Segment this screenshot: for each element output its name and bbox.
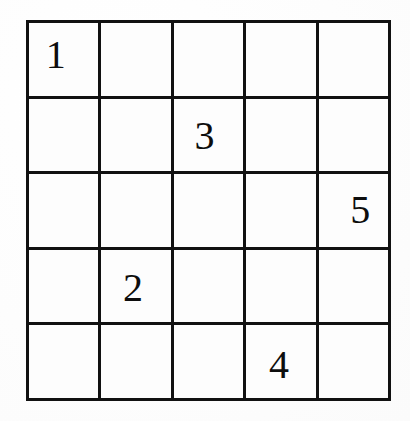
grid-cell-r5c4[interactable]: 4 bbox=[246, 325, 315, 398]
grid-cell-r4c3[interactable] bbox=[174, 250, 243, 323]
grid-cell-r3c4[interactable] bbox=[246, 174, 315, 247]
grid-cell-r1c3[interactable] bbox=[174, 23, 243, 96]
cell-value-r4c2: 2 bbox=[101, 252, 167, 323]
grid-cell-r2c4[interactable] bbox=[246, 99, 315, 172]
grid-cell-r1c5[interactable] bbox=[319, 23, 388, 96]
grid-cell-r1c1[interactable]: 1 bbox=[29, 23, 98, 96]
grid-cell-r4c5[interactable] bbox=[319, 250, 388, 323]
grid-cell-r1c2[interactable] bbox=[101, 23, 170, 96]
grid-cell-r2c2[interactable] bbox=[101, 99, 170, 172]
cell-value-r1c1: 1 bbox=[29, 23, 90, 92]
grid-cell-r3c3[interactable] bbox=[174, 174, 243, 247]
grid-cell-r3c5[interactable]: 5 bbox=[319, 174, 388, 247]
puzzle-grid: 1 3 bbox=[26, 20, 391, 401]
grid-cell-r2c5[interactable] bbox=[319, 99, 388, 172]
grid-cell-r5c2[interactable] bbox=[101, 325, 170, 398]
grid-cell-r4c2[interactable]: 2 bbox=[101, 250, 170, 323]
grid-cell-r2c1[interactable] bbox=[29, 99, 98, 172]
grid-cell-r5c1[interactable] bbox=[29, 325, 98, 398]
grid-cell-r2c3[interactable]: 3 bbox=[174, 99, 243, 172]
grid-cell-r4c1[interactable] bbox=[29, 250, 98, 323]
cell-value-r3c5: 5 bbox=[326, 174, 388, 247]
grid-cell-r5c3[interactable] bbox=[174, 325, 243, 398]
scanned-page: 1 3 bbox=[0, 0, 410, 421]
grid-cell-r3c1[interactable] bbox=[29, 174, 98, 247]
grid-cell-r3c2[interactable] bbox=[101, 174, 170, 247]
cell-value-r5c4: 4 bbox=[246, 328, 313, 398]
grid-cell-r5c5[interactable] bbox=[319, 325, 388, 398]
grid-cell-r4c4[interactable] bbox=[246, 250, 315, 323]
cell-value-r2c3: 3 bbox=[174, 100, 239, 172]
grid-cell-r1c4[interactable] bbox=[246, 23, 315, 96]
